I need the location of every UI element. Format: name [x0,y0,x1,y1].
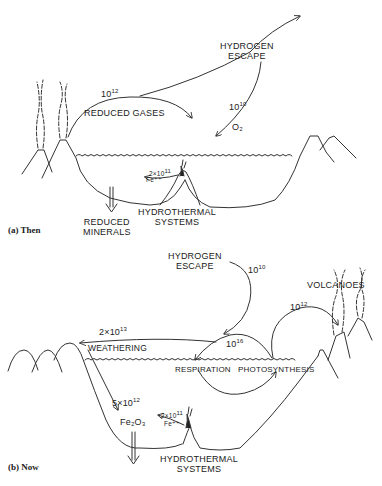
panel-b-title: (b) Now [8,462,39,472]
panel-a-reduced-gases-arc [68,16,300,137]
panel-b-flux-fe2o3: 5×1012 [112,397,140,408]
panel-a-flux-reduced-gases: 1012 [101,88,119,99]
panel-a-reduced-gases-label: REDUCED GASES [84,109,165,118]
panel-b-flux-volcanoes: 1012 [290,301,308,312]
panel-b-flux-weathering: 2×1013 [99,326,127,337]
panel-b-volcanoes-label: VOLCANOES [307,281,365,290]
diagram-canvas [0,0,382,486]
panel-b-weathering-label: WEATHERING [88,344,147,353]
panel-a-o2-label: O₂ [232,123,243,132]
panel-b-fe2o3-label: Fe₂O₃ [120,418,146,427]
panel-b-hydrogen-escape-label: HYDROGEN ESCAPE [168,252,222,271]
panel-b-photosynthesis-label: PHOTOSYNTHESIS [238,366,314,374]
panel-b-fe-flux: 2×1011 [161,410,183,420]
panel-b-hydrothermal-label: HYDROTHERMAL SYSTEMS [160,455,238,474]
panel-a-ocean-surface [76,155,292,157]
panel-b-flux-bio: 1016 [226,338,244,349]
panel-a-title: (a) Then [8,225,41,235]
panel-b-ocean-surface [85,359,295,361]
panel-b-hydrogen-arrow [224,262,251,334]
panel-b-flux-hydrogen: 1010 [248,264,266,275]
panel-a-flux-o2: 1010 [229,101,247,112]
panel-a-hydrothermal-label: HYDROTHERMAL SYSTEMS [138,208,216,227]
panel-a-hydrogen-escape-label: HYDROGEN ESCAPE [220,42,274,61]
panel-b-respiration-label: RESPIRATION [175,366,231,374]
panel-b-volcano-arrow [272,307,338,358]
panel-a-ocean-basin [160,136,356,208]
panel-a-reduced-minerals-label: REDUCED MINERALS [83,218,131,237]
panel-a-fe-species: Fe⁺⁺ [146,177,162,184]
panel-b-fe-species: Fe⁺⁺ [164,421,180,428]
